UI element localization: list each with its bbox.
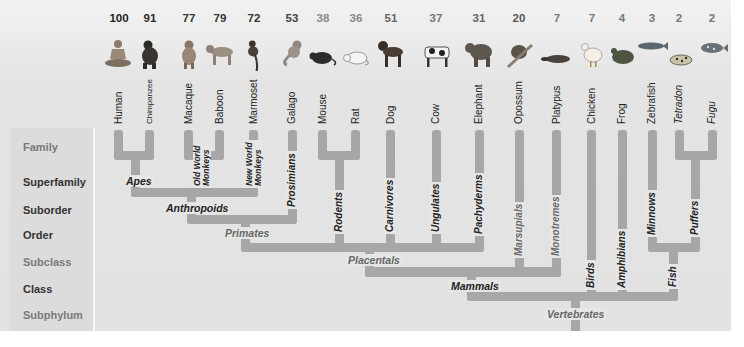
value-platypus: 7 bbox=[554, 12, 560, 24]
clade-anthropoids: Anthropoids bbox=[164, 202, 230, 214]
branch-mammals-join bbox=[365, 267, 561, 277]
species-cow: Cow bbox=[430, 104, 441, 124]
macaque-icon bbox=[172, 34, 206, 74]
clade-apes: Apes bbox=[124, 175, 154, 187]
species-mouse: Mouse bbox=[317, 94, 328, 124]
frog-icon bbox=[605, 34, 639, 74]
value-galago: 53 bbox=[286, 12, 299, 24]
species-macaque: Macaque bbox=[183, 83, 194, 124]
value-chimpanzee: 91 bbox=[144, 12, 157, 24]
clade-pachyderms: Pachyderms bbox=[473, 173, 484, 236]
species-opossum: Opossum bbox=[513, 81, 524, 124]
species-fugu: Fugu bbox=[706, 101, 717, 124]
clade-birds: Birds bbox=[585, 260, 596, 290]
value-mouse: 38 bbox=[317, 12, 330, 24]
rank-superfamily: Superfamily bbox=[23, 176, 86, 188]
value-opossum: 20 bbox=[513, 12, 526, 24]
zebrafish-icon bbox=[635, 26, 669, 66]
clade-old-world-monkeys: Old WorldMonkeys bbox=[193, 144, 211, 188]
species-platypus: Platypus bbox=[551, 86, 562, 124]
value-macaque: 77 bbox=[183, 12, 196, 24]
species-rat: Rat bbox=[350, 108, 361, 124]
chicken-icon bbox=[575, 34, 609, 74]
rank-class: Class bbox=[23, 283, 52, 295]
value-frog: 4 bbox=[619, 12, 625, 24]
species-marmoset: Marmoset bbox=[248, 80, 259, 124]
clade-carnivores: Carnivores bbox=[384, 178, 395, 234]
clade-puffers: Puffers bbox=[689, 199, 700, 237]
value-chicken: 7 bbox=[589, 12, 595, 24]
species-zebrafish: Zebrafish bbox=[646, 82, 657, 124]
clade-minnows: Minnows bbox=[646, 190, 657, 237]
species-chicken: Chicken bbox=[586, 88, 597, 124]
clade-rodents: Rodents bbox=[333, 190, 344, 234]
tetradon-icon bbox=[665, 40, 699, 80]
rank-family: Family bbox=[23, 141, 58, 153]
baboon-icon bbox=[203, 34, 237, 74]
rank-divider bbox=[93, 128, 95, 331]
species-chimpanzee: Chimpanzee bbox=[145, 79, 154, 124]
value-elephant: 31 bbox=[473, 12, 486, 24]
value-fugu: 2 bbox=[709, 12, 715, 24]
clade-fish: Fish bbox=[667, 264, 678, 289]
dog-icon bbox=[374, 34, 408, 74]
elephant-icon bbox=[462, 34, 496, 74]
rank-subclass: Subclass bbox=[23, 256, 71, 268]
clade-ungulates: Ungulates bbox=[430, 182, 441, 234]
value-tetradon: 2 bbox=[676, 12, 682, 24]
clade-amphibians: Amphibians bbox=[616, 229, 627, 290]
species-elephant: Elephant bbox=[473, 85, 484, 124]
clade-placentals: Placentals bbox=[346, 254, 402, 266]
value-dog: 51 bbox=[385, 12, 398, 24]
clade-new-world-monkeys: New WorldMonkeys bbox=[245, 140, 263, 188]
value-marmoset: 72 bbox=[248, 12, 261, 24]
rank-order: Order bbox=[23, 229, 53, 241]
clade-mammals: Mammals bbox=[449, 280, 501, 292]
species-baboon: Baboon bbox=[214, 90, 225, 124]
value-human: 100 bbox=[109, 12, 128, 24]
value-rat: 36 bbox=[350, 12, 363, 24]
species-galago: Galago bbox=[286, 92, 297, 124]
opossum-icon bbox=[502, 34, 536, 74]
marmoset-icon bbox=[237, 34, 271, 74]
platypus-icon bbox=[540, 34, 574, 74]
clade-prosimians: Prosimians bbox=[286, 151, 297, 209]
fugu-icon bbox=[696, 28, 730, 68]
species-tetradon: Tetradon bbox=[673, 85, 684, 124]
branch-placentals-join bbox=[241, 243, 484, 252]
value-cow: 37 bbox=[430, 12, 443, 24]
clade-vertebrates: Vertebrates bbox=[545, 308, 606, 320]
value-baboon: 79 bbox=[214, 12, 227, 24]
clade-monotremes: Monotremes bbox=[550, 195, 561, 258]
value-zebrafish: 3 bbox=[649, 12, 655, 24]
cow-icon bbox=[419, 34, 453, 74]
rank-suborder: Suborder bbox=[23, 204, 72, 216]
species-dog: Dog bbox=[385, 106, 396, 124]
galago-icon bbox=[275, 34, 309, 74]
rat-icon bbox=[339, 34, 373, 74]
clade-primates: Primates bbox=[223, 227, 271, 239]
species-frog: Frog bbox=[616, 103, 627, 124]
species-human: Human bbox=[113, 64, 124, 124]
rank-subphylum: Subphylum bbox=[23, 309, 83, 321]
chimpanzee-icon bbox=[133, 34, 167, 74]
mouse-icon bbox=[306, 34, 340, 74]
clade-marsupials: Marsupials bbox=[513, 202, 524, 258]
